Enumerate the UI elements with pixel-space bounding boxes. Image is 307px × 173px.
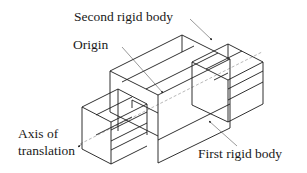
leader-origin	[122, 47, 163, 93]
second-body-right-block	[192, 44, 263, 122]
leader-first-rigid-body	[209, 121, 237, 146]
leader-axis	[78, 144, 82, 147]
label-axis-line1: Axis of	[18, 127, 58, 141]
second-body-left-block	[82, 89, 147, 164]
label-second-rigid-body: Second rigid body	[74, 10, 173, 24]
label-origin: Origin	[73, 38, 108, 52]
label-axis-line2: translation	[18, 144, 75, 158]
translation-axis	[80, 52, 262, 144]
leader-second-rigid-body	[190, 19, 212, 40]
label-first-rigid-body: First rigid body	[198, 147, 282, 161]
